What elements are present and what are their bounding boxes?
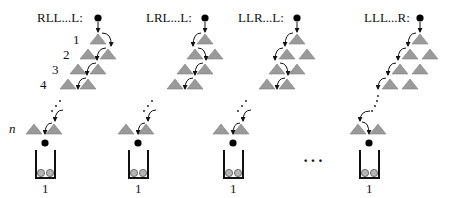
bin-count-2: 1: [135, 182, 142, 195]
bin-count-3: 1: [230, 182, 237, 195]
path-label-rll: RLL...L:: [37, 11, 83, 24]
column-lll-r: [350, 14, 438, 178]
column-llr: [213, 14, 315, 178]
galton-path-diagram: RLL...L: LRL...L: LLR...L: LLL...R: 1 2 …: [0, 0, 454, 198]
row-label-1: 1: [73, 33, 80, 46]
path-label-lll-r: LLL...R:: [364, 11, 410, 24]
path-label-llr: LLR...L:: [238, 11, 284, 24]
row-label-3: 3: [52, 63, 59, 76]
peg: [90, 34, 106, 44]
start-ball: [94, 14, 101, 21]
bin-count-1: 1: [42, 182, 49, 195]
row-label-n: n: [9, 122, 16, 135]
column-rll: [26, 14, 116, 178]
diagram-graphics: [0, 0, 454, 198]
row-label-4: 4: [40, 78, 47, 91]
row-label-2: 2: [63, 48, 70, 61]
bin: [36, 150, 55, 178]
columns-ellipsis: ···: [303, 154, 325, 167]
path-label-lrl: LRL...L:: [146, 11, 192, 24]
column-lrl: [118, 14, 223, 178]
bin-count-4: 1: [366, 182, 373, 195]
